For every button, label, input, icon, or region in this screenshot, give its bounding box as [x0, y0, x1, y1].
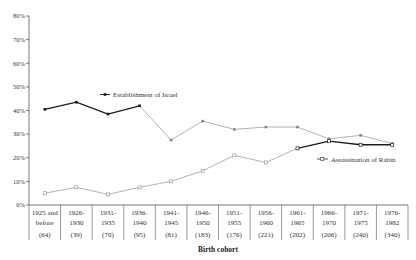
x-category: 1925 andbefore(64)	[32, 209, 58, 239]
y-tick-label: 30%	[13, 130, 26, 137]
israel-marker	[233, 128, 236, 131]
israel-marker	[359, 134, 362, 137]
category-line1: 1951-	[226, 209, 243, 217]
rabin-marker	[359, 143, 362, 146]
israel-line-dark	[45, 102, 140, 114]
category-count: (95)	[134, 231, 146, 239]
category-count: (64)	[39, 231, 51, 239]
category-line1: 1931-	[100, 209, 117, 217]
legend-label: Establishment of Israel	[113, 91, 178, 99]
category-line2: 1930	[69, 219, 84, 227]
category-count: (240)	[353, 231, 369, 239]
x-category: 1946-1950(183)	[195, 209, 212, 239]
israel-marker	[265, 126, 268, 129]
x-axis-title: Birth cohort	[198, 245, 238, 254]
y-tick-label: 20%	[13, 154, 26, 161]
y-tick-label: 40%	[13, 107, 26, 114]
rabin-marker	[138, 186, 141, 189]
category-count: (81)	[165, 231, 177, 239]
y-tick-label: 0%	[16, 201, 25, 208]
x-category: 1951-1955(176)	[226, 209, 243, 239]
x-category: 1956-1960(221)	[258, 209, 275, 239]
category-line2: 1940	[133, 219, 148, 227]
x-category: 1961-1965(202)	[289, 209, 306, 239]
x-category: 1971-1975(240)	[352, 209, 369, 239]
category-count: (39)	[71, 231, 83, 239]
category-line2: 1935	[101, 219, 116, 227]
category-count: (176)	[227, 231, 243, 239]
y-tick-label: 70%	[13, 36, 26, 43]
category-line2: 1975	[354, 219, 369, 227]
category-line1: 1971-	[352, 209, 369, 217]
filled-square-icon	[104, 93, 107, 96]
rabin-marker	[328, 140, 331, 143]
category-line2: 1950	[196, 219, 211, 227]
category-line1: 1941-	[163, 209, 180, 217]
y-tick-label: 50%	[13, 83, 26, 90]
category-count: (206)	[321, 231, 337, 239]
category-count: (183)	[195, 231, 211, 239]
x-category: 1936-1940(95)	[131, 209, 148, 239]
category-count: (221)	[258, 231, 274, 239]
x-category: 1926-1930(39)	[68, 209, 85, 239]
category-line2: before	[36, 219, 54, 227]
y-tick-label: 10%	[13, 178, 26, 185]
category-line1: 1926-	[68, 209, 85, 217]
category-line1: 1925 and	[32, 209, 58, 217]
rabin-line-light	[45, 148, 298, 194]
category-line2: 1970	[322, 219, 337, 227]
rabin-marker	[264, 161, 267, 164]
category-line1: 1976-	[384, 209, 401, 217]
category-line1: 1946-	[195, 209, 212, 217]
rabin-marker	[391, 143, 394, 146]
rabin-marker	[201, 169, 204, 172]
line-chart: 0%10%20%30%40%50%60%70%80% 1925 andbefor…	[0, 0, 416, 260]
x-category: 1966-1970(206)	[321, 209, 338, 239]
israel-line-light	[140, 106, 393, 144]
category-line1: 1961-	[289, 209, 306, 217]
y-axis: 0%10%20%30%40%50%60%70%80%	[13, 12, 29, 208]
category-line1: 1936-	[131, 209, 148, 217]
y-tick-label: 80%	[13, 12, 26, 19]
x-category: 1941-1945(81)	[163, 209, 180, 239]
israel-marker	[43, 108, 46, 111]
category-count: (70)	[102, 231, 114, 239]
israel-marker	[201, 120, 204, 123]
category-line1: 1956-	[258, 209, 275, 217]
israel-marker	[138, 104, 141, 107]
plot-area	[43, 101, 393, 196]
israel-marker	[170, 139, 173, 142]
category-line2: 1965	[290, 219, 305, 227]
category-count: (202)	[290, 231, 306, 239]
rabin-marker	[43, 192, 46, 195]
category-line2: 1945	[164, 219, 179, 227]
y-tick-label: 60%	[13, 60, 26, 67]
x-category: 1976-1982(340)	[384, 209, 401, 239]
category-line2: 1955	[227, 219, 242, 227]
legend: Establishment of IsraelAssassination of …	[100, 91, 396, 164]
category-line1: 1966-	[321, 209, 338, 217]
rabin-marker	[170, 180, 173, 183]
legend-rabin: Assassination of Rabin	[317, 156, 396, 164]
open-square-icon	[321, 158, 324, 161]
x-axis-table: 1925 andbefore(64)1926-1930(39)1931-1935…	[29, 205, 408, 240]
rabin-marker	[75, 186, 78, 189]
category-line2: 1982	[385, 219, 400, 227]
x-category: 1931-1935(70)	[100, 209, 117, 239]
rabin-marker	[296, 147, 299, 150]
rabin-line-dark	[297, 141, 392, 148]
israel-marker	[75, 101, 78, 104]
rabin-marker	[106, 193, 109, 196]
rabin-marker	[233, 154, 236, 157]
legend-label: Assassination of Rabin	[331, 156, 396, 164]
israel-marker	[107, 113, 110, 116]
legend-israel: Establishment of Israel	[100, 91, 178, 99]
category-count: (340)	[385, 231, 401, 239]
category-line2: 1960	[259, 219, 274, 227]
israel-marker	[296, 126, 299, 129]
